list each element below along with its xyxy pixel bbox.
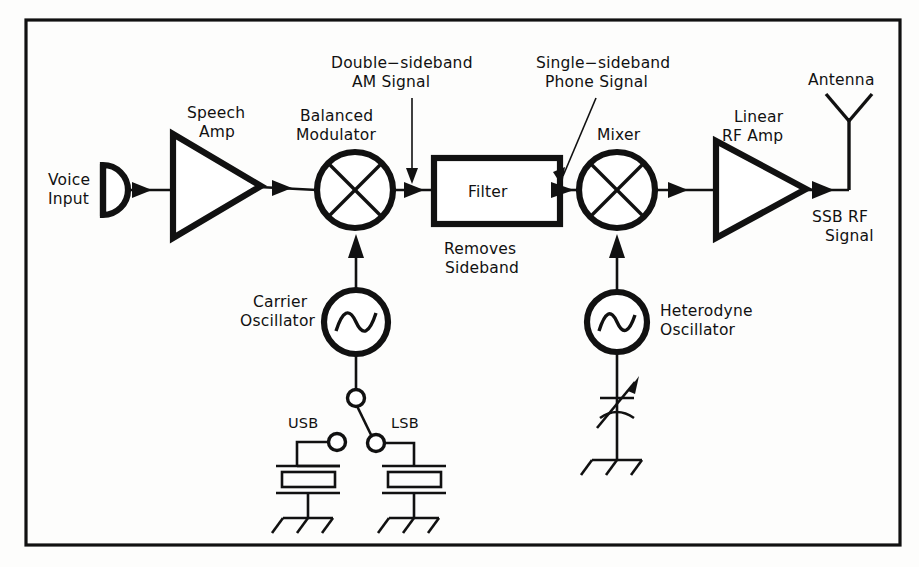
dsb-annotation-label-line2: AM Signal: [352, 73, 430, 91]
switch-pivot-contact[interactable]: [348, 390, 365, 407]
filter-label: Filter: [468, 183, 508, 201]
usb-label: USB: [288, 415, 318, 431]
usb-contact[interactable]: [329, 434, 346, 451]
heterodyne-oscillator-label-line1: Heterodyne: [660, 302, 753, 320]
voice-input-label-line1: Voice: [48, 171, 90, 189]
ssb-transmitter-diagram: Voice Input Speech Amp Balanced Modulato…: [0, 0, 919, 567]
lsb-label: LSB: [391, 415, 419, 431]
canvas-background: [0, 0, 919, 567]
mixer-block: [579, 152, 655, 228]
speech-amp-label-line2: Amp: [199, 123, 235, 141]
ssb-annotation-label-line2: Phone Signal: [545, 73, 648, 91]
ssb-annotation-label-line1: Single−sideband: [536, 54, 670, 72]
balanced-modulator-label-line1: Balanced: [300, 107, 373, 125]
heterodyne-oscillator-label-line2: Oscillator: [660, 321, 736, 339]
voice-input-label-line2: Input: [48, 190, 89, 208]
lsb-contact[interactable]: [368, 435, 385, 452]
carrier-oscillator-label-line1: Carrier: [253, 293, 308, 311]
ssb-rf-signal-label-line1: SSB RF: [812, 208, 868, 226]
mixer-label: Mixer: [597, 126, 641, 144]
antenna-label: Antenna: [808, 71, 875, 89]
linear-rf-amp-label-line1: Linear: [734, 108, 784, 126]
balanced-modulator-block: [317, 152, 393, 228]
speech-amp-label-line1: Speech: [187, 104, 245, 122]
linear-rf-amp-label-line2: RF Amp: [722, 127, 783, 145]
dsb-annotation-label-line1: Double−sideband: [331, 54, 473, 72]
balanced-modulator-label-line2: Modulator: [296, 126, 376, 144]
ssb-rf-signal-label-line2: Signal: [825, 227, 874, 245]
microphone-icon: [103, 164, 128, 216]
filter-note-line2: Sideband: [445, 259, 519, 277]
filter-note-line1: Removes: [444, 240, 516, 258]
diagram-canvas: Voice Input Speech Amp Balanced Modulato…: [0, 0, 919, 567]
carrier-oscillator-label-line2: Oscillator: [240, 312, 316, 330]
